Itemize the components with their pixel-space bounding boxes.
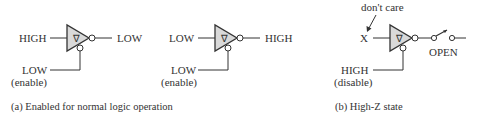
gate2-output-label: HIGH bbox=[265, 32, 293, 44]
gate1-input-label: HIGH bbox=[19, 32, 47, 44]
caption-a: (a) Enabled for normal logic operation bbox=[11, 101, 173, 113]
gate1-output-label: LOW bbox=[117, 32, 142, 44]
gate3-enable-note: (disable) bbox=[334, 76, 372, 88]
svg-text:∇: ∇ bbox=[72, 33, 80, 44]
gate3-enable-label: HIGH bbox=[341, 64, 369, 76]
tristate-inverter-gate-1: ∇ bbox=[50, 25, 112, 70]
svg-text:∇: ∇ bbox=[220, 33, 228, 44]
dont-care-label: don't care bbox=[361, 1, 404, 13]
gate2-input-label: LOW bbox=[169, 32, 194, 44]
gate3-input-label: X bbox=[360, 32, 368, 44]
tristate-inverter-gate-2: ∇ bbox=[198, 25, 260, 70]
caption-b: (b) High-Z state bbox=[335, 101, 403, 113]
svg-text:∇: ∇ bbox=[395, 33, 403, 44]
dont-care-arrow bbox=[367, 15, 377, 32]
gate2-enable-note: (enable) bbox=[161, 76, 197, 88]
gate2-enable-label: LOW bbox=[171, 64, 196, 76]
switch-open-label: OPEN bbox=[429, 46, 458, 58]
gate1-enable-label: LOW bbox=[22, 64, 47, 76]
gate1-enable-note: (enable) bbox=[11, 76, 47, 88]
